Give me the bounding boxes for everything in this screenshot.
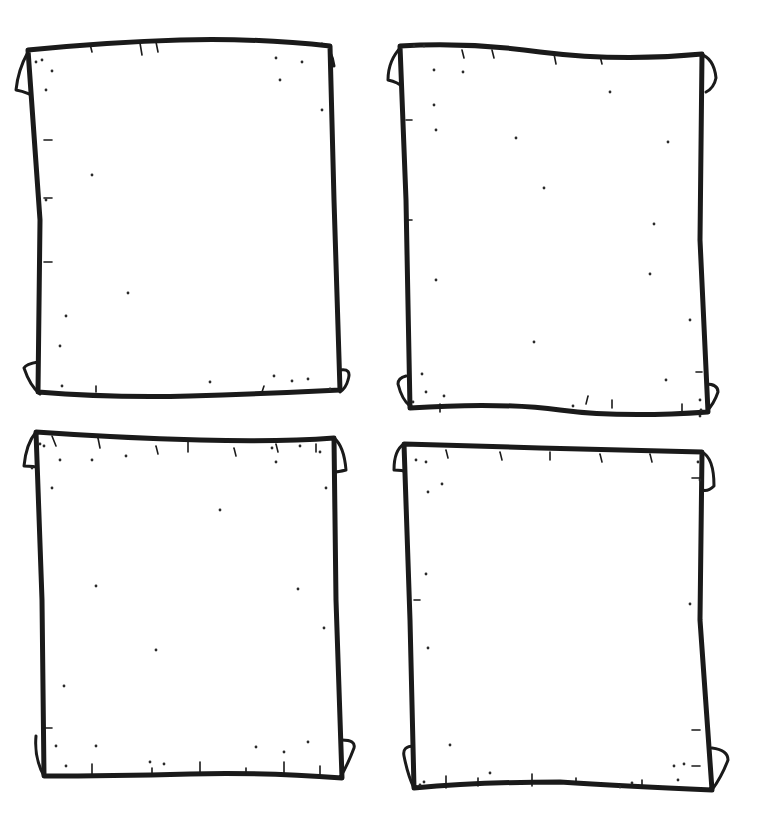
parchment-speck: [163, 763, 166, 766]
parchment-speck: [255, 746, 258, 749]
parchment-speck: [51, 487, 54, 490]
parchment-speck: [515, 137, 518, 140]
parchment-speck: [423, 781, 426, 784]
scroll-bottom-right: [394, 444, 728, 790]
parchment-speck: [219, 509, 222, 512]
scroll-frame: [28, 40, 340, 397]
parchment-speck: [41, 59, 44, 62]
parchment-speck: [51, 70, 54, 73]
parchment-speck: [683, 763, 686, 766]
parchment-speck: [419, 784, 422, 787]
parchment-speck: [61, 385, 64, 388]
parchment-speck: [435, 279, 438, 282]
parchment-speck: [127, 292, 130, 295]
parchment-speck: [291, 380, 294, 383]
parchment-speck: [433, 69, 436, 72]
parchment-speck: [412, 401, 415, 404]
parchment-speck: [489, 772, 492, 775]
parchment-speck: [449, 744, 452, 747]
parchment-speck: [297, 588, 300, 591]
parchment-speck: [619, 786, 622, 789]
parchment-speck: [31, 467, 34, 470]
parchment-speck: [125, 455, 128, 458]
parchment-speck: [427, 647, 430, 650]
parchment-speck: [45, 199, 48, 202]
parchment-speck: [435, 129, 438, 132]
parchment-speck: [279, 79, 282, 82]
parchment-speck: [209, 381, 212, 384]
parchment-speck: [673, 765, 676, 768]
parchment-speck: [700, 409, 703, 412]
parchment-speck: [307, 741, 310, 744]
parchment-speck: [425, 391, 428, 394]
parchment-speck: [45, 89, 48, 92]
parchment-speck: [462, 71, 465, 74]
parchment-speck: [329, 388, 332, 391]
parchment-speck: [653, 223, 656, 226]
parchment-speck: [91, 459, 94, 462]
parchment-speck: [697, 461, 700, 464]
parchment-speck: [63, 685, 66, 688]
parchment-speck: [59, 459, 62, 462]
parchment-speck: [323, 627, 326, 630]
parchment-speck: [699, 415, 702, 418]
parchment-speck: [699, 399, 702, 402]
parchment-speck: [667, 141, 670, 144]
parchment-speck: [443, 395, 446, 398]
scroll-top-left: [16, 40, 349, 397]
parchment-speck: [425, 573, 428, 576]
parchment-speck: [665, 379, 668, 382]
parchment-speck: [427, 491, 430, 494]
parchment-speck: [423, 45, 426, 48]
scroll-curl: [712, 748, 728, 790]
parchment-speck: [543, 187, 546, 190]
parchment-speck: [631, 782, 634, 785]
scroll-frame: [400, 45, 708, 415]
parchment-speck: [149, 761, 152, 764]
parchment-speck: [321, 109, 324, 112]
parchment-speck: [421, 373, 424, 376]
parchment-speck: [95, 745, 98, 748]
parchment-speck: [325, 487, 328, 490]
parchment-speck: [441, 483, 444, 486]
parchment-speck: [415, 459, 418, 462]
parchment-speck: [39, 443, 42, 446]
parchment-speck: [55, 745, 58, 748]
parchment-speck: [299, 445, 302, 448]
parchment-speck: [273, 375, 276, 378]
scroll-frame: [404, 444, 712, 790]
parchment-speck: [319, 451, 322, 454]
parchment-speck: [699, 479, 702, 482]
parchment-speck: [43, 445, 46, 448]
parchment-speck: [649, 273, 652, 276]
parchment-speck: [283, 751, 286, 754]
parchment-speck: [301, 61, 304, 64]
parchment-speck: [689, 319, 692, 322]
parchment-speck: [689, 603, 692, 606]
parchment-speck: [35, 61, 38, 64]
parchment-speck: [572, 405, 575, 408]
scroll-bottom-left: [24, 432, 354, 778]
parchment-speck: [413, 45, 416, 48]
parchment-speck: [155, 649, 158, 652]
parchment-speck: [65, 765, 68, 768]
parchment-speck: [271, 447, 274, 450]
parchment-speck: [95, 585, 98, 588]
scroll-top-right: [388, 45, 718, 418]
parchment-speck: [677, 779, 680, 782]
parchment-speck: [425, 461, 428, 464]
parchment-speck: [275, 461, 278, 464]
scroll-frame: [36, 432, 342, 778]
parchment-speck: [275, 57, 278, 60]
parchment-speck: [59, 345, 62, 348]
parchment-speck: [65, 315, 68, 318]
parchment-speck: [609, 91, 612, 94]
parchment-speck: [91, 174, 94, 177]
parchment-speck: [307, 378, 310, 381]
parchment-speck: [533, 341, 536, 344]
scroll-sheet: [0, 0, 761, 829]
parchment-speck: [433, 104, 436, 107]
